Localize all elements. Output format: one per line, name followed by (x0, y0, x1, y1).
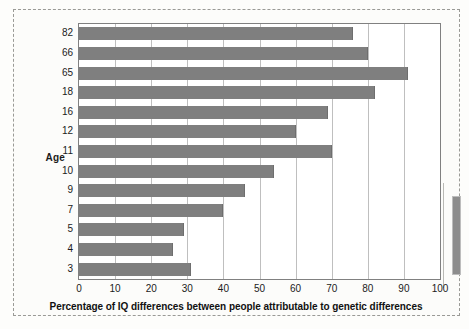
bar-age-11 (79, 145, 332, 158)
bar-row (79, 122, 440, 142)
x-tick-70: 70 (317, 283, 347, 294)
y-tick-9: 9 (40, 184, 73, 195)
bar-age-5 (79, 223, 184, 236)
bar-row (79, 181, 440, 201)
y-tick-65: 65 (40, 67, 73, 78)
x-axis-title: Percentage of IQ differences between peo… (24, 301, 448, 312)
bar-age-82 (79, 27, 353, 40)
bar-row (79, 220, 440, 240)
bar-age-18 (79, 86, 375, 99)
plot-area (78, 23, 441, 280)
x-tick-80: 80 (353, 283, 383, 294)
x-tick-30: 30 (172, 283, 202, 294)
bar-row (79, 259, 440, 279)
bar-row (79, 161, 440, 181)
y-tick-16: 16 (40, 106, 73, 117)
x-tick-20: 20 (136, 283, 166, 294)
bar-row (79, 83, 440, 103)
bar-row (79, 63, 440, 83)
bar-chart: Age 826665181612111097543 01020304050607… (0, 0, 469, 329)
bar-age-9 (79, 184, 245, 197)
bar-row (79, 24, 440, 44)
bar-age-16 (79, 106, 328, 119)
x-tick-50: 50 (245, 283, 275, 294)
y-tick-7: 7 (40, 204, 73, 215)
x-tick-90: 90 (389, 283, 419, 294)
bar-age-4 (79, 243, 173, 256)
y-tick-5: 5 (40, 223, 73, 234)
bar-age-65 (79, 67, 408, 80)
x-tick-10: 10 (100, 283, 130, 294)
bar-age-3 (79, 263, 191, 276)
y-tick-12: 12 (40, 125, 73, 136)
bar-age-10 (79, 165, 274, 178)
bar-age-12 (79, 125, 296, 138)
y-tick-11: 11 (40, 145, 73, 156)
bar-age-66 (79, 47, 368, 60)
bar-row (79, 44, 440, 64)
y-tick-82: 82 (40, 27, 73, 38)
y-tick-3: 3 (40, 263, 73, 274)
y-tick-18: 18 (40, 86, 73, 97)
y-tick-4: 4 (40, 243, 73, 254)
bar-row (79, 240, 440, 260)
bar-age-7 (79, 204, 223, 217)
bar-series (79, 24, 440, 279)
x-tick-40: 40 (208, 283, 238, 294)
bar-row (79, 102, 440, 122)
bar-row (79, 201, 440, 221)
y-tick-10: 10 (40, 165, 73, 176)
x-tick-60: 60 (281, 283, 311, 294)
y-tick-66: 66 (40, 47, 73, 58)
bar-row (79, 142, 440, 162)
x-tick-100: 100 (425, 283, 455, 294)
x-tick-0: 0 (64, 283, 94, 294)
